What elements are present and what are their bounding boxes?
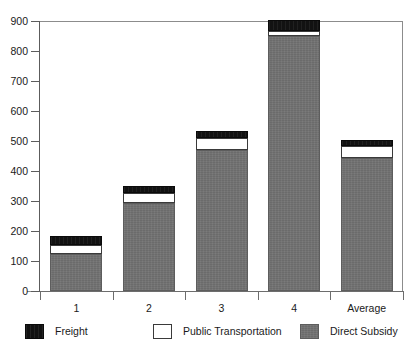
x-axis-baseline bbox=[40, 291, 403, 292]
x-axis-category-label: Average bbox=[330, 303, 403, 314]
x-axis-category-label: 1 bbox=[40, 303, 113, 314]
cropped-title-remnant bbox=[8, 0, 268, 7]
legend-swatch-freight-icon bbox=[25, 324, 44, 339]
bar-segment-public-transportation bbox=[50, 245, 102, 254]
x-axis-tick bbox=[113, 291, 114, 300]
x-axis-category-label: 4 bbox=[258, 303, 331, 314]
legend-label-direct-subsidy: Direct Subsidy bbox=[330, 326, 398, 337]
stacked-bar bbox=[196, 21, 248, 291]
chart-legend: Freight Public Transportation Direct Sub… bbox=[0, 322, 413, 344]
bar-segment-direct-subsidy bbox=[341, 158, 393, 291]
bar-segment-public-transportation bbox=[341, 146, 393, 158]
bar-segment-direct-subsidy bbox=[50, 254, 102, 291]
plot-frame-right-border bbox=[402, 21, 403, 291]
legend-item-public-transportation: Public Transportation bbox=[153, 322, 282, 341]
bar-segment-freight bbox=[196, 131, 248, 138]
bar-segment-freight bbox=[268, 20, 320, 31]
stacked-bar bbox=[268, 21, 320, 291]
y-axis-tick-label: 200 bbox=[10, 226, 28, 237]
x-axis-tick bbox=[330, 291, 331, 300]
figure-container: 0100200300400500600700800900 1234Average… bbox=[0, 0, 413, 349]
y-axis-tick-label: 0 bbox=[22, 286, 28, 297]
bar-segment-direct-subsidy bbox=[268, 36, 320, 291]
y-axis-tick-label: 300 bbox=[10, 196, 28, 207]
y-axis-tick-label: 400 bbox=[10, 166, 28, 177]
x-axis-tick bbox=[185, 291, 186, 300]
legend-item-freight: Freight bbox=[25, 322, 88, 341]
y-axis-tick-label: 700 bbox=[10, 76, 28, 87]
x-axis-category-label: 2 bbox=[113, 303, 186, 314]
y-axis-tick bbox=[31, 201, 40, 202]
bar-segment-public-transportation bbox=[268, 31, 320, 36]
stacked-bar bbox=[123, 21, 175, 291]
y-axis-tick bbox=[31, 291, 40, 292]
y-axis-tick-label: 100 bbox=[10, 256, 28, 267]
x-axis-tick bbox=[403, 291, 404, 300]
legend-swatch-public-transportation-icon bbox=[153, 324, 172, 339]
y-axis-tick-label: 800 bbox=[10, 46, 28, 57]
x-axis-tick bbox=[258, 291, 259, 300]
bar-segment-freight bbox=[50, 236, 102, 245]
bar-segment-freight bbox=[341, 140, 393, 146]
bar-segment-public-transportation bbox=[123, 193, 175, 203]
y-axis-tick bbox=[31, 231, 40, 232]
legend-item-direct-subsidy: Direct Subsidy bbox=[300, 322, 398, 341]
y-axis-tick bbox=[31, 21, 40, 22]
y-axis-tick bbox=[31, 81, 40, 82]
y-axis-tick bbox=[31, 261, 40, 262]
stacked-bar bbox=[50, 21, 102, 291]
legend-swatch-direct-subsidy-icon bbox=[300, 324, 319, 339]
bar-segment-freight bbox=[123, 186, 175, 193]
y-axis-tick-label: 900 bbox=[10, 16, 28, 27]
y-axis-tick-label: 500 bbox=[10, 136, 28, 147]
x-axis-category-label: 3 bbox=[185, 303, 258, 314]
y-axis-tick bbox=[31, 171, 40, 172]
stacked-bar bbox=[341, 21, 393, 291]
legend-label-public-transportation: Public Transportation bbox=[183, 326, 282, 337]
x-axis-tick bbox=[40, 291, 41, 300]
legend-label-freight: Freight bbox=[55, 326, 88, 337]
y-axis-tick-label: 600 bbox=[10, 106, 28, 117]
y-axis-tick bbox=[31, 51, 40, 52]
bar-segment-public-transportation bbox=[196, 138, 248, 150]
bar-segment-direct-subsidy bbox=[196, 150, 248, 291]
bar-segment-direct-subsidy bbox=[123, 203, 175, 291]
y-axis-tick bbox=[31, 111, 40, 112]
y-axis-tick bbox=[31, 141, 40, 142]
